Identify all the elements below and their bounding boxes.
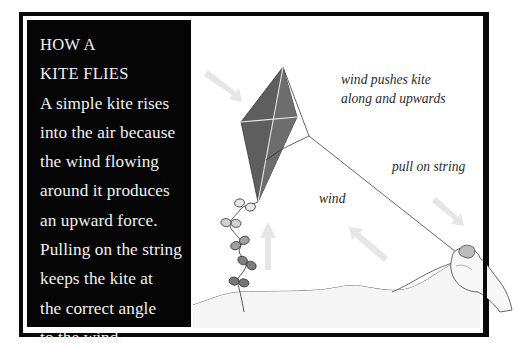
panel-body-line: to the wind. [40, 323, 191, 343]
panel-body-line: into the air because [40, 118, 191, 147]
label-pull-on-string: pull on string [392, 157, 465, 176]
panel-body-line: the wind flowing [40, 147, 191, 176]
hill-shading [193, 262, 480, 328]
panel-body-line: A simple kite rises [40, 89, 191, 118]
panel-body-line: an upward force. [40, 206, 191, 235]
panel-body-line: Pulling on the string [40, 235, 191, 264]
explanation-panel: HOW A KITE FLIES A simple kite rises int… [27, 20, 191, 327]
panel-title-line-2: KITE FLIES [40, 59, 191, 88]
label-wind-pushes-line1: wind pushes kite [341, 70, 431, 89]
label-wind-pushes-line2: along and upwards [341, 89, 445, 108]
panel-body-line: around it produces [40, 176, 191, 205]
panel-title-line-1: HOW A [40, 30, 191, 59]
tail-bow-icon [221, 196, 258, 287]
panel-body-line: keeps the kite at [40, 264, 191, 293]
panel-body-line: the correct angle [40, 294, 191, 323]
kite-icon [241, 67, 297, 202]
label-wind: wind [319, 189, 345, 208]
